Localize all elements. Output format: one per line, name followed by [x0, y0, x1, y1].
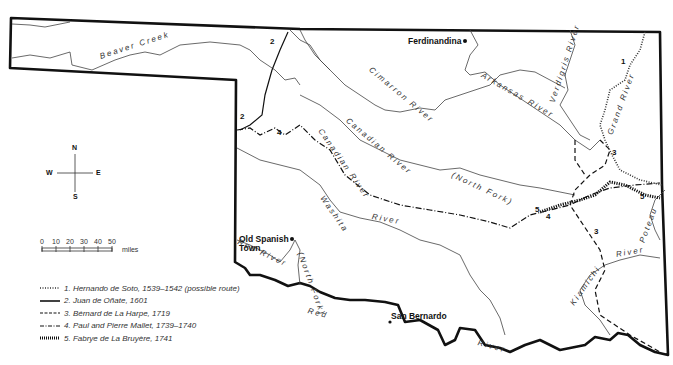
legend-label-5: 5. Fabrye de La Bruyère, 1741 [64, 334, 173, 343]
compass-w: W [46, 169, 53, 176]
arkansas-line [465, 30, 600, 150]
legend-item-1: 1. Hernando de Soto, 1539–1542 (possible… [40, 282, 240, 295]
legend-swatch-dashed [40, 310, 60, 316]
scale-tick-0: 0 [40, 238, 44, 245]
beaver-creek-line [12, 42, 300, 85]
legend-label-4: 4. Paul and Pierre Mallet, 1739–1740 [64, 321, 196, 330]
compass-e: E [96, 169, 101, 176]
compass-s: S [73, 193, 78, 200]
route-marker-4a: 4 [277, 128, 281, 137]
scale-unit: miles [122, 246, 138, 253]
route-1-desoto [600, 32, 662, 185]
legend-label-2: 2. Juan de Oñate, 1601 [64, 296, 148, 305]
route-marker-5b: 5 [640, 192, 644, 201]
legend-swatch-dash-dot [40, 323, 60, 329]
compass-n: N [72, 144, 77, 151]
town-ferdinandina: Ferdinandina [408, 37, 461, 46]
route-marker-2a: 2 [270, 37, 274, 46]
legend-label-1: 1. Hernando de Soto, 1539–1542 (possible… [64, 284, 240, 293]
legend-swatch-dotted [40, 285, 60, 291]
route-marker-4b: 4 [546, 212, 550, 221]
legend-item-4: 4. Paul and Pierre Mallet, 1739–1740 [40, 320, 240, 333]
route-marker-3b: 3 [594, 227, 598, 236]
scale-tick-10: 10 [52, 238, 60, 245]
legend-item-3: 3. Bérnard de La Harpe, 1719 [40, 307, 240, 320]
map-legend: 1. Hernando de Soto, 1539–1542 (possible… [40, 282, 240, 345]
route-marker-1: 1 [621, 57, 625, 66]
route-marker-3a: 3 [612, 148, 616, 157]
old-spanish-town-dot [290, 237, 294, 241]
legend-item-2: 2. Juan de Oñate, 1601 [40, 295, 240, 308]
route-2-onate [240, 32, 288, 130]
scale-tick-40: 40 [94, 238, 102, 245]
compass-rose [57, 154, 93, 192]
ferdinandina-dot [463, 39, 467, 43]
scale-tick-20: 20 [66, 238, 74, 245]
canadian-upper-line [300, 30, 330, 70]
legend-label-3: 3. Bérnard de La Harpe, 1719 [64, 309, 170, 318]
route-marker-2b: 2 [240, 112, 244, 121]
legend-swatch-hatched [40, 335, 60, 341]
route-4-mallet [237, 125, 660, 228]
beaver-creek-upper [12, 22, 70, 27]
route-marker-5a: 5 [535, 205, 539, 214]
scale-tick-50: 50 [108, 238, 116, 245]
legend-item-5: 5. Fabrye de La Bruyère, 1741 [40, 332, 240, 345]
town-san-bernardo: San Bernardo [391, 312, 447, 321]
legend-swatch-solid [40, 298, 60, 304]
scale-tick-30: 30 [80, 238, 88, 245]
scale-bar [42, 246, 112, 252]
